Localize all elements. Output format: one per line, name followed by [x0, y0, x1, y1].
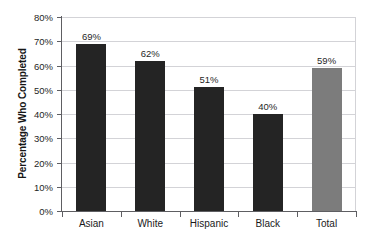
bar-chart: Percentage Who Completed 0%10%20%30%40%5…: [0, 0, 373, 242]
y-axis-tick-label: 30%: [5, 133, 53, 144]
y-axis-tick: [57, 138, 61, 139]
y-axis-tick-label: 0%: [5, 206, 53, 217]
y-axis-tick-label: 10%: [5, 181, 53, 192]
x-axis-line: [61, 211, 357, 212]
y-axis-tick: [57, 211, 61, 212]
y-axis-tick-label: 40%: [5, 109, 53, 120]
y-axis-tick-label: 70%: [5, 36, 53, 47]
y-axis-tick: [57, 163, 61, 164]
bar-value-label: 51%: [184, 74, 234, 85]
y-axis-line: [61, 16, 62, 212]
y-axis-tick: [57, 17, 61, 18]
y-axis-tick: [57, 41, 61, 42]
y-axis-tick-label: 60%: [5, 60, 53, 71]
y-axis-tick-label: 80%: [5, 12, 53, 23]
y-axis-tick-label: 50%: [5, 84, 53, 95]
x-axis-category-label: Total: [287, 218, 367, 229]
bar-value-label: 59%: [302, 55, 352, 66]
bar: [194, 87, 224, 211]
plot-area: 69%62%51%40%59%: [62, 17, 356, 211]
x-axis-tick: [297, 212, 298, 217]
bar: [253, 114, 283, 211]
bar-value-label: 69%: [66, 31, 116, 42]
y-axis-tick: [57, 90, 61, 91]
bar: [76, 44, 106, 211]
y-axis-tick-labels: 0%10%20%30%40%50%60%70%80%: [0, 0, 53, 242]
x-axis-tick: [238, 212, 239, 217]
bar: [312, 68, 342, 211]
y-axis-tick: [57, 114, 61, 115]
x-axis-tick: [356, 212, 357, 217]
y-axis-tick: [57, 66, 61, 67]
bar: [135, 61, 165, 211]
bar-value-label: 40%: [243, 101, 293, 112]
x-axis-tick: [180, 212, 181, 217]
bar-value-label: 62%: [125, 48, 175, 59]
x-axis-tick: [62, 212, 63, 217]
y-axis-tick: [57, 187, 61, 188]
y-axis-tick-label: 20%: [5, 157, 53, 168]
x-axis-tick: [121, 212, 122, 217]
